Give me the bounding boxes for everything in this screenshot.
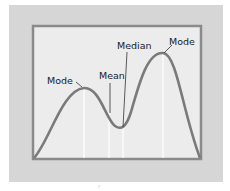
median-label: Median [117, 40, 152, 51]
right-mode-label: Mode [169, 36, 195, 47]
left-mode-label: Mode [47, 75, 73, 86]
mean-label: Mean [99, 70, 125, 81]
footer-mark: r [98, 183, 101, 189]
bimodal-diagram: Mode Mean Median Mode r [0, 0, 230, 191]
